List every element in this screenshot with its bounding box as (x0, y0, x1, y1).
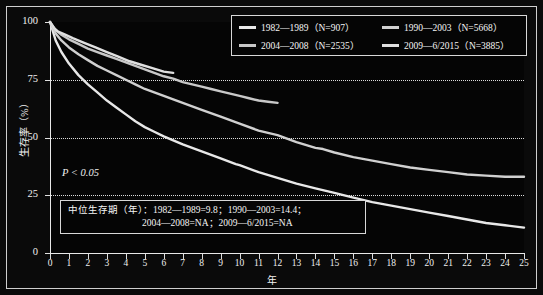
legend-box: 1982—1989（N=907） 1990—2003（N=5668） 2004—… (231, 15, 527, 56)
median-survival-line-2: 2004—2008=NA；2009—6/2015=NA (68, 217, 358, 230)
legend-entry-2009-2015[interactable]: 2009—6/2015（N=3885） (379, 38, 522, 52)
p-value-annotation: P < 0.05 (62, 167, 99, 178)
survival-curve-figure: 0255075100 01234567891011121314151617181… (0, 0, 543, 295)
legend-row-1: 1982—1989（N=907） 1990—2003（N=5668） (236, 18, 522, 36)
legend-swatch-2004-2008 (239, 44, 256, 47)
legend-label-2004-2008: 2004—2008（N=2535） (261, 38, 360, 52)
y-axis-title: 生存率（%） (16, 83, 31, 173)
legend-entry-2004-2008[interactable]: 2004—2008（N=2535） (236, 38, 379, 52)
legend-swatch-1990-2003 (382, 26, 399, 29)
legend-swatch-2009-2015 (382, 44, 399, 47)
legend-entry-1982-1989[interactable]: 1982—1989（N=907） (236, 20, 379, 34)
legend-row-2: 2004—2008（N=2535） 2009—6/2015（N=3885） (236, 36, 522, 54)
median-survival-box: 中位生存期（年）：1982—1989=9.8；1990—2003=14.4； 2… (60, 200, 366, 234)
legend-label-2009-2015: 2009—6/2015（N=3885） (404, 38, 510, 52)
legend-label-1990-2003: 1990—2003（N=5668） (404, 20, 503, 34)
legend-swatch-1982-1989 (239, 26, 256, 29)
median-survival-line-1: 中位生存期（年）：1982—1989=9.8；1990—2003=14.4； (68, 204, 358, 217)
x-axis-title: 年 (0, 272, 543, 287)
legend-entry-1990-2003[interactable]: 1990—2003（N=5668） (379, 20, 522, 34)
legend-label-1982-1989: 1982—1989（N=907） (261, 20, 355, 34)
